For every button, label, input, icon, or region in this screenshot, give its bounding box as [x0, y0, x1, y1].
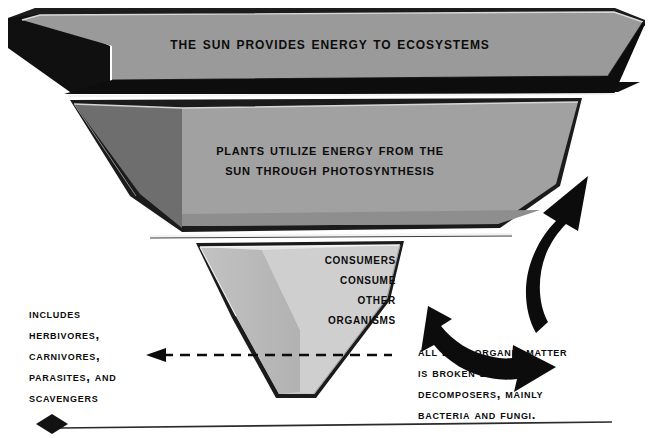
band-sun-label: The Sun Provides Energy to Ecosystems [90, 32, 570, 54]
note-decomposers: All dead organic matter is broken down b… [418, 341, 643, 425]
note-consumers-types: Includes herbivores, carnivores, parasit… [29, 303, 179, 408]
band-consumers-label: Consumers Consume Other Organisms [236, 249, 396, 329]
band-plants-label: Plants Utilize Energy From the Sun Throu… [120, 140, 540, 180]
diagram-canvas: The Sun Provides Energy to Ecosystems Pl… [0, 0, 650, 438]
